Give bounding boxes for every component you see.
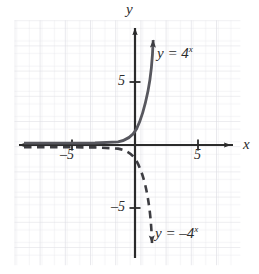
curve-label-positive-exponent: x — [189, 44, 193, 54]
exponential-graph-figure — [0, 0, 259, 274]
x-tick-label-neg5: –5 — [60, 148, 74, 162]
curve-label-negative: y = –4x — [155, 225, 198, 241]
curve-label-negative-exponent: x — [194, 224, 198, 234]
curve-label-positive-text: y = 4 — [157, 45, 189, 61]
y-tick-label-pos5: 5 — [118, 74, 125, 88]
x-tick-label-pos5: 5 — [194, 148, 201, 162]
curve-label-positive: y = 4x — [157, 45, 193, 61]
x-axis-label: x — [243, 137, 250, 152]
curve-label-negative-text: y = –4 — [155, 225, 194, 241]
y-tick-label-neg5: –5 — [111, 200, 125, 214]
y-axis-label: y — [126, 2, 133, 17]
